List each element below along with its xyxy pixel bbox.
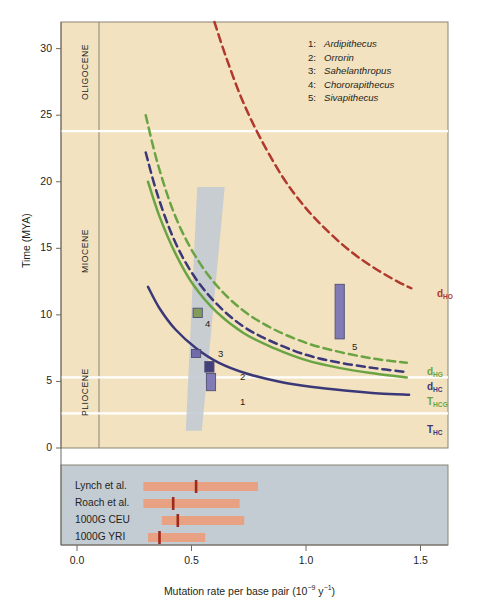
x-tick-label-3: 1.5	[399, 554, 443, 566]
x-tick-label-2: 1.0	[284, 554, 328, 566]
study-estimate-tick-1	[172, 497, 175, 510]
legend-number-1: 1:	[308, 38, 316, 49]
fossil-marker-label-2: 2	[240, 371, 245, 382]
study-range-bar-1	[143, 499, 239, 508]
study-estimate-tick-0	[195, 480, 198, 493]
legend-number-3: 3:	[308, 65, 316, 76]
x-axis-title: Mutation rate per base pair (10−9 y−1)	[0, 584, 499, 597]
study-range-bar-0	[143, 482, 258, 491]
legend-number-4: 4:	[308, 79, 316, 90]
y-tick-label-30: 30	[26, 42, 52, 54]
curve-label-d-hc: dHC	[427, 381, 443, 392]
curve-label-t-hcg: THCG	[427, 396, 448, 407]
legend-species-3: Sahelanthropus	[324, 65, 391, 76]
y-tick-label-25: 25	[26, 108, 52, 120]
curve-label-t-hc: THC	[427, 424, 443, 435]
legend-number-2: 2:	[308, 52, 316, 63]
study-estimate-tick-2	[177, 514, 180, 527]
fossil-marker-3	[192, 350, 201, 358]
fossil-marker-2	[205, 362, 214, 373]
x-tick-label-1: 0.5	[170, 554, 214, 566]
figure-root: 051015202530Time (MYA)OLIGOCENEMIOCENEPL…	[0, 0, 499, 610]
fossil-marker-label-5: 5	[352, 341, 357, 352]
y-tick-label-20: 20	[26, 175, 52, 187]
fossil-marker-label-4: 4	[205, 318, 210, 329]
y-axis-title: Time (MYA)	[20, 213, 32, 268]
study-label-3: 1000G YRI	[75, 531, 125, 542]
curve-label-d-ho: dHO	[437, 288, 453, 299]
legend-number-5: 5:	[308, 92, 316, 103]
epoch-label-miocene: MIOCENE	[80, 229, 90, 273]
fossil-marker-4	[193, 308, 202, 317]
fossil-marker-1	[206, 373, 215, 390]
epoch-label-oligocene: OLIGOCENE	[80, 44, 90, 100]
legend-species-1: Ardipithecus	[324, 38, 377, 49]
study-label-1: Roach et al.	[75, 497, 129, 508]
study-range-bar-2	[162, 516, 244, 525]
epoch-label-pliocene: PLIOCENE	[80, 368, 90, 416]
legend-species-2: Orrorin	[324, 52, 354, 63]
fossil-marker-label-1: 1	[240, 396, 245, 407]
study-range-bar-3	[148, 533, 205, 542]
x-tick-label-0: 0.0	[55, 554, 99, 566]
fossil-marker-5	[335, 284, 344, 339]
study-estimate-tick-3	[158, 531, 161, 544]
curve-label-d-hg: dHG	[427, 366, 443, 377]
y-tick-label-0: 0	[26, 441, 52, 453]
y-tick-label-5: 5	[26, 374, 52, 386]
legend-species-5: Sivapithecus	[324, 92, 378, 103]
study-label-0: Lynch et al.	[75, 480, 127, 491]
study-label-2: 1000G CEU	[75, 514, 130, 525]
y-tick-label-10: 10	[26, 308, 52, 320]
fossil-marker-label-3: 3	[218, 348, 223, 359]
legend-species-4: Chororapithecus	[324, 79, 394, 90]
